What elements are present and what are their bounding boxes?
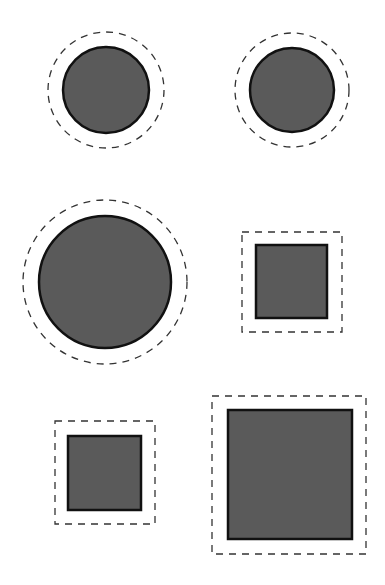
square-small-bottom-left[interactable] (55, 421, 155, 524)
square-shape[interactable] (228, 410, 352, 539)
circle-top-left[interactable] (48, 32, 164, 148)
circle-shape[interactable] (63, 47, 149, 133)
circle-large[interactable] (23, 200, 187, 364)
square-middle-right[interactable] (242, 232, 342, 332)
circle-top-right[interactable] (235, 33, 349, 147)
circle-shape[interactable] (39, 216, 171, 348)
circle-shape[interactable] (250, 48, 334, 132)
shapes-canvas (0, 0, 385, 585)
shapes-layer (23, 32, 366, 554)
square-shape[interactable] (68, 436, 141, 510)
square-shape[interactable] (256, 245, 327, 318)
square-large-bottom-right[interactable] (212, 396, 366, 554)
